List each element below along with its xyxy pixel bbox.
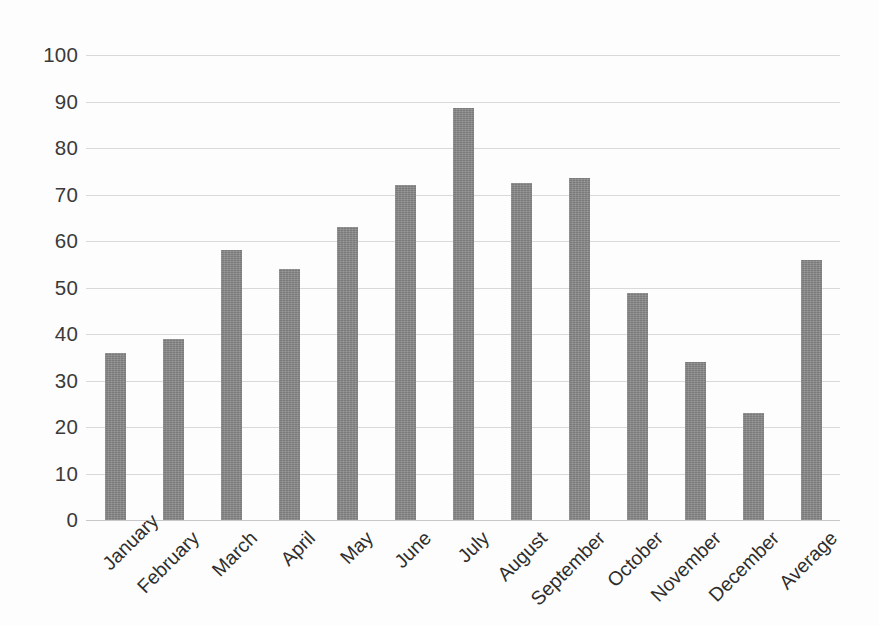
y-axis-tick-label: 40 — [0, 324, 78, 345]
plot-area — [86, 55, 840, 520]
bar — [685, 362, 706, 520]
y-axis-tick-label: 30 — [0, 370, 78, 391]
y-axis-tick-label: 0 — [0, 510, 78, 531]
bar-series — [86, 55, 840, 520]
y-axis-tick-label: 100 — [0, 45, 78, 66]
bar — [801, 260, 822, 520]
bar — [395, 185, 416, 520]
y-axis-tick-label: 70 — [0, 184, 78, 205]
x-axis-tick-label: January — [99, 528, 145, 574]
bar — [511, 183, 532, 520]
y-axis: 0102030405060708090100 — [0, 0, 78, 626]
bar — [105, 353, 126, 520]
bar — [221, 250, 242, 520]
bar — [337, 227, 358, 520]
bar-chart: 0102030405060708090100 JanuaryFebruaryMa… — [0, 0, 879, 626]
bar — [569, 178, 590, 520]
bar — [743, 413, 764, 520]
x-axis-baseline — [86, 520, 840, 521]
bar — [627, 293, 648, 520]
bar — [279, 269, 300, 520]
x-axis: JanuaryFebruaryMarchAprilMayJuneJulyAugu… — [86, 522, 840, 626]
y-axis-tick-label: 60 — [0, 231, 78, 252]
bar — [453, 108, 474, 520]
y-axis-tick-label: 50 — [0, 277, 78, 298]
y-axis-tick-label: 80 — [0, 138, 78, 159]
y-axis-tick-label: 10 — [0, 463, 78, 484]
y-axis-tick-label: 90 — [0, 91, 78, 112]
y-axis-tick-label: 20 — [0, 417, 78, 438]
bar — [163, 339, 184, 520]
